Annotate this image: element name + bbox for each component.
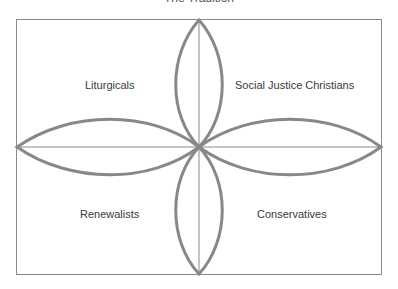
quadrant-label-bottom-right: Conservatives [257, 208, 327, 220]
quadrant-label-top-right: Social Justice Christians [235, 79, 355, 91]
quadrant-label-top-left: Liturgicals [85, 79, 135, 91]
quadrant-label-bottom-left: Renewalists [80, 208, 140, 220]
quadrant-petal-diagram: Liturgicals Social Justice Christians Re… [0, 0, 398, 289]
